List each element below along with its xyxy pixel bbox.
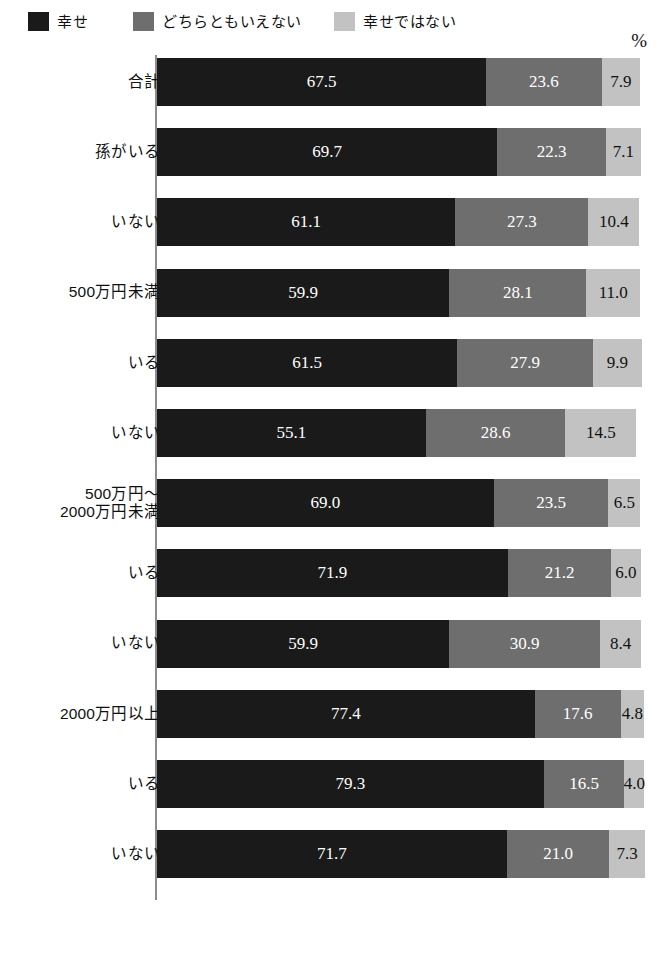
- bar-segment-value: 71.9: [318, 564, 348, 581]
- legend-label-unhappy: 幸せではない: [363, 14, 456, 29]
- stacked-bar: 69.023.56.5: [157, 479, 645, 527]
- bar-row-label: いる: [0, 549, 160, 597]
- bar-segment-value: 61.1: [291, 213, 321, 230]
- bar-segment-neutral: 22.3: [497, 128, 606, 176]
- bar-segment-happy: 59.9: [157, 620, 449, 668]
- bar-segment-neutral: 17.6: [535, 690, 621, 738]
- bar-segment-neutral: 21.0: [507, 830, 609, 878]
- bar-segment-value: 16.5: [569, 775, 599, 792]
- bar-segment-value: 61.5: [292, 354, 322, 371]
- bar-row: 合計67.523.67.9: [0, 58, 665, 106]
- bar-segment-neutral: 23.6: [486, 58, 601, 106]
- bar-row: いない55.128.614.5: [0, 409, 665, 457]
- bar-segment-neutral: 28.1: [449, 269, 586, 317]
- bar-segment-happy: 61.5: [157, 339, 457, 387]
- bar-segment-unhappy: 7.3: [609, 830, 645, 878]
- bar-row-label-line: いる: [128, 564, 160, 582]
- bar-segment-value: 21.0: [543, 845, 573, 862]
- stacked-bar: 55.128.614.5: [157, 409, 645, 457]
- legend-label-neutral: どちらともいえない: [162, 14, 302, 29]
- bar-row-label-line: 500万円未満: [69, 283, 160, 301]
- legend-swatch-neutral-icon: [133, 12, 154, 31]
- bar-row-label: いる: [0, 339, 160, 387]
- bar-row-label: いない: [0, 620, 160, 668]
- stacked-bar: 71.921.26.0: [157, 549, 645, 597]
- bar-segment-value: 69.7: [312, 143, 342, 160]
- bar-segment-happy: 69.0: [157, 479, 494, 527]
- bar-row: 2000万円以上77.417.64.8: [0, 690, 665, 738]
- bar-segment-value: 28.6: [481, 424, 511, 441]
- bar-segment-neutral: 30.9: [449, 620, 600, 668]
- bar-row-label-line: 孫がいる: [95, 143, 160, 161]
- bar-segment-value: 4.0: [624, 775, 645, 792]
- bar-segment-unhappy: 14.5: [565, 409, 636, 457]
- bar-segment-unhappy: 9.9: [593, 339, 641, 387]
- stacked-bar: 59.928.111.0: [157, 269, 645, 317]
- bar-segment-value: 11.0: [599, 284, 628, 301]
- bar-segment-unhappy: 7.9: [602, 58, 641, 106]
- bar-segment-value: 7.9: [610, 73, 631, 90]
- bar-segment-value: 55.1: [277, 424, 307, 441]
- bar-row: いる71.921.26.0: [0, 549, 665, 597]
- bar-segment-neutral: 21.2: [508, 549, 611, 597]
- bar-row-label-line: いる: [128, 354, 160, 372]
- bar-segment-unhappy: 4.8: [621, 690, 644, 738]
- stacked-bar: 67.523.67.9: [157, 58, 645, 106]
- bar-row: 500万円～2000万円未満69.023.56.5: [0, 479, 665, 527]
- bar-segment-happy: 71.7: [157, 830, 507, 878]
- bar-row: いない71.721.07.3: [0, 830, 665, 878]
- bar-segment-unhappy: 6.0: [611, 549, 640, 597]
- bar-row-label-line: いない: [111, 213, 160, 231]
- bar-segment-value: 71.7: [317, 845, 347, 862]
- bar-segment-value: 17.6: [563, 705, 593, 722]
- bar-row-label: 孫がいる: [0, 128, 160, 176]
- bar-segment-neutral: 16.5: [544, 760, 625, 808]
- bar-segment-unhappy: 11.0: [586, 269, 640, 317]
- stacked-bar: 59.930.98.4: [157, 620, 645, 668]
- bar-segment-value: 30.9: [510, 635, 540, 652]
- stacked-bar: 71.721.07.3: [157, 830, 645, 878]
- bar-segment-unhappy: 4.0: [624, 760, 644, 808]
- bar-row-label-line: いない: [111, 634, 160, 652]
- bar-segment-value: 27.3: [507, 213, 537, 230]
- bar-segment-value: 28.1: [503, 284, 533, 301]
- legend-item-happy: 幸せ: [28, 8, 88, 34]
- bar-segment-neutral: 27.9: [457, 339, 593, 387]
- stacked-bar: 69.722.37.1: [157, 128, 645, 176]
- axis-unit-label: %: [631, 31, 647, 50]
- bar-segment-value: 6.0: [615, 564, 636, 581]
- bar-segment-happy: 59.9: [157, 269, 449, 317]
- bar-segment-value: 79.3: [336, 775, 366, 792]
- bar-segment-happy: 71.9: [157, 549, 508, 597]
- bar-row-label: 2000万円以上: [0, 690, 160, 738]
- bar-segment-happy: 79.3: [157, 760, 544, 808]
- bar-row-label-line: いる: [128, 775, 160, 793]
- bar-segment-unhappy: 8.4: [600, 620, 641, 668]
- bar-segment-value: 21.2: [545, 564, 575, 581]
- bar-segment-value: 7.1: [613, 143, 634, 160]
- bar-row-label: いない: [0, 198, 160, 246]
- bar-row-label-line: 合計: [128, 73, 160, 91]
- bar-segment-value: 27.9: [510, 354, 540, 371]
- legend-swatch-happy-icon: [28, 12, 49, 31]
- bar-segment-happy: 69.7: [157, 128, 497, 176]
- stacked-bar: 61.127.310.4: [157, 198, 645, 246]
- bar-row-label: 合計: [0, 58, 160, 106]
- bar-row-label: いない: [0, 830, 160, 878]
- legend-item-neutral: どちらともいえない: [133, 8, 302, 34]
- bar-segment-value: 67.5: [307, 73, 337, 90]
- bar-row-label: 500万円～2000万円未満: [0, 479, 160, 527]
- bar-row-label: いない: [0, 409, 160, 457]
- bar-segment-unhappy: 7.1: [606, 128, 641, 176]
- bar-segment-neutral: 23.5: [494, 479, 609, 527]
- legend-label-happy: 幸せ: [57, 14, 88, 29]
- bar-row: 孫がいる69.722.37.1: [0, 128, 665, 176]
- bar-row: いない59.930.98.4: [0, 620, 665, 668]
- bar-segment-unhappy: 6.5: [608, 479, 640, 527]
- bar-segment-happy: 67.5: [157, 58, 486, 106]
- stacked-bar-chart: 幸せ どちらともいえない 幸せではない % 合計67.523.67.9孫がいる6…: [0, 0, 665, 958]
- bar-row-label-line: いない: [111, 845, 160, 863]
- bar-row: いない61.127.310.4: [0, 198, 665, 246]
- bar-row-label-line: いない: [111, 424, 160, 442]
- bar-segment-value: 22.3: [537, 143, 567, 160]
